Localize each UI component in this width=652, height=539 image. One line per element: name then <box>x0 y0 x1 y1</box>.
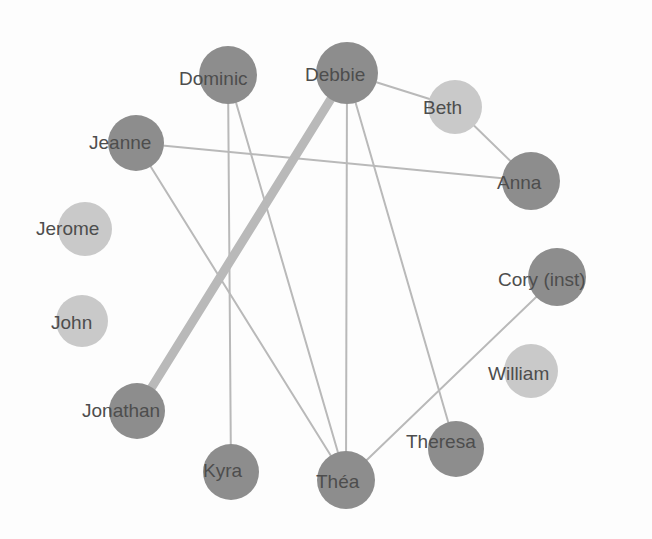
node-jerome[interactable] <box>58 202 112 256</box>
network-graph-svg <box>0 0 652 539</box>
node-jeanne[interactable] <box>108 115 164 171</box>
node-theresa[interactable] <box>428 421 484 477</box>
node-anna[interactable] <box>502 152 560 210</box>
node-debbie[interactable] <box>316 42 378 104</box>
edge-jeanne-thea[interactable] <box>136 143 346 480</box>
network-diagram-canvas: DominicDebbieBethJeanneAnnaJeromeCory (i… <box>0 0 652 539</box>
edge-debbie-theresa[interactable] <box>347 73 456 449</box>
node-kyra[interactable] <box>203 444 259 500</box>
node-cory[interactable] <box>528 248 586 306</box>
edge-dominic-kyra[interactable] <box>228 75 231 472</box>
node-john[interactable] <box>56 295 108 347</box>
node-beth[interactable] <box>428 80 482 134</box>
node-jonathan[interactable] <box>109 383 165 439</box>
edge-jeanne-anna[interactable] <box>136 143 531 181</box>
node-dominic[interactable] <box>199 46 257 104</box>
node-thea[interactable] <box>317 451 375 509</box>
edge-dominic-thea[interactable] <box>228 75 346 480</box>
node-william[interactable] <box>504 344 558 398</box>
edge-debbie-thea[interactable] <box>346 73 347 480</box>
edge-layer <box>136 73 557 480</box>
